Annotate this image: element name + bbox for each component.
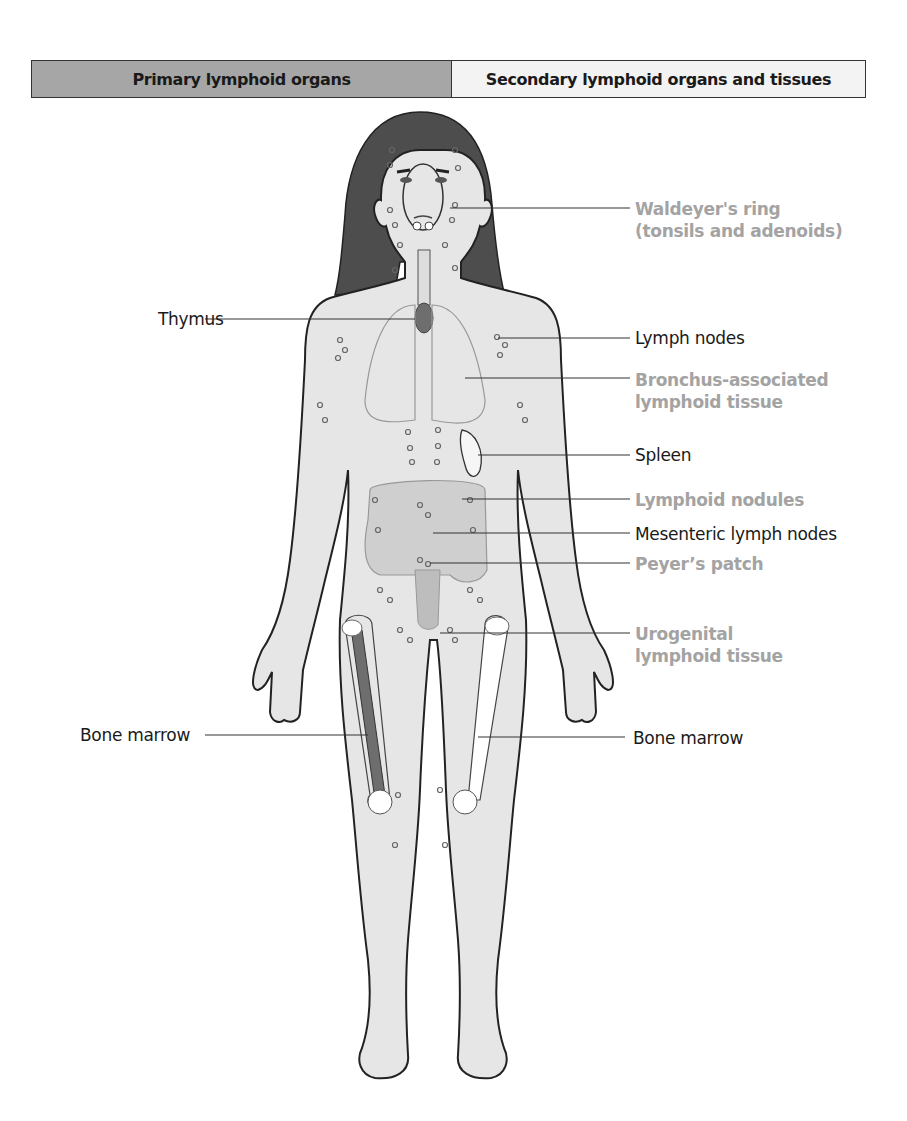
label-lymph-nodes: Lymph nodes [635,327,744,349]
label-line-1: Waldeyer's ring [635,198,842,220]
label-line-2: lymphoid tissue [635,645,783,667]
label-lymphoid-nodules: Lymphoid nodules [635,489,804,511]
label-line-2: lymphoid tissue [635,391,828,413]
label-peyers-patch: Peyer’s patch [635,553,763,575]
label-bone-marrow-left: Bone marrow [80,724,190,746]
label-urogenital-lymphoid-tissue: Urogenital lymphoid tissue [635,623,783,667]
label-mesenteric-lymph-nodes: Mesenteric lymph nodes [635,523,837,545]
label-line-1: Urogenital [635,623,783,645]
label-spleen: Spleen [635,444,691,466]
label-waldeyers-ring: Waldeyer's ring (tonsils and adenoids) [635,198,842,242]
body-figure [0,0,907,1121]
label-bronchus-associated-lymphoid-tissue: Bronchus-associated lymphoid tissue [635,369,828,413]
thymus-organ [415,303,433,333]
label-line-1: Bronchus-associated [635,369,828,391]
label-bone-marrow-right: Bone marrow [633,727,743,749]
large-intestine [365,481,487,582]
label-thymus: Thymus [158,308,224,330]
label-line-2: (tonsils and adenoids) [635,220,842,242]
